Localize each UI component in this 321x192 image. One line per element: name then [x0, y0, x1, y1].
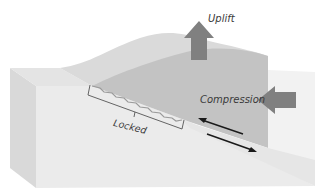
fault-block-diagram — [0, 0, 321, 192]
uplift-label: Uplift — [208, 13, 235, 24]
block-side-face — [10, 68, 36, 188]
compression-label: Compression — [200, 94, 265, 105]
